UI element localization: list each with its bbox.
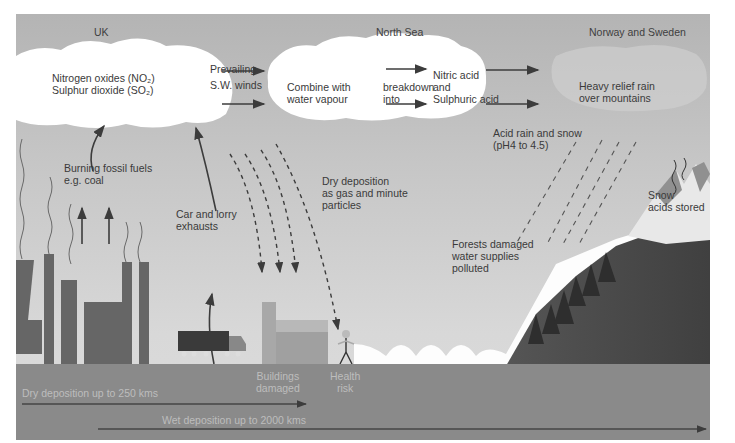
dry-dep-line-2: as gas and minute <box>322 187 408 199</box>
exhaust-line-1: Car and lorry <box>176 208 237 220</box>
dry-deposition-label: Dry deposition as gas and minute particl… <box>322 175 408 211</box>
region-label-north-sea: North Sea <box>376 26 423 38</box>
heavy-relief-rain-label: Heavy relief rain over mountains <box>579 80 655 104</box>
acid-rain-snow-label: Acid rain and snow (pH4 to 4.5) <box>493 127 582 151</box>
exhaust-line-2: exhausts <box>176 220 237 232</box>
uk-cloud-text: Nitrogen oxides (NO₂) Sulphur dioxide (S… <box>52 72 155 96</box>
acid-rain-line-1: Acid rain and snow <box>493 127 582 139</box>
factories <box>16 254 149 364</box>
buildings-damaged-label: Buildings damaged <box>256 370 300 394</box>
sulphur-dioxide-label: Sulphur dioxide (SO₂) <box>52 84 155 96</box>
snow-line-2: acids stored <box>648 201 705 213</box>
acids-label: Nitric acid and Sulphuric acid <box>433 69 499 105</box>
and-label: and <box>433 81 499 93</box>
dry-dep-line-3: particles <box>322 199 408 211</box>
acid-rain-line-2: (pH4 to 4.5) <box>493 139 582 151</box>
car-lorry-exhausts-label: Car and lorry exhausts <box>176 208 237 232</box>
forests-line-2: water supplies <box>452 250 534 262</box>
heavy-rain-line-2: over mountains <box>579 92 655 104</box>
heavy-rain-line-1: Heavy relief rain <box>579 80 655 92</box>
smoke-plumes <box>20 139 142 264</box>
wet-deposition-distance-label: Wet deposition up to 2000 kms <box>162 414 306 426</box>
breakdown-label: breakdown into <box>383 81 434 105</box>
fossil-line-2: e.g. coal <box>64 174 152 186</box>
snow-line-1: Snow <box>648 189 705 201</box>
region-label-norway-sweden: Norway and Sweden <box>589 26 686 38</box>
breakdown-line-1: breakdown <box>383 81 434 93</box>
dry-deposition-distance-label: Dry deposition up to 250 kms <box>22 387 158 399</box>
buildings-line-1: Buildings <box>256 370 300 382</box>
combine-line-2: water vapour <box>287 93 351 105</box>
winds-line-1: Prevailing <box>210 63 262 75</box>
person-health-risk <box>338 330 354 364</box>
combine-label: Combine with water vapour <box>287 81 351 105</box>
forests-line-3: polluted <box>452 262 534 274</box>
sulphuric-acid-label: Sulphuric acid <box>433 93 499 105</box>
buildings-line-2: damaged <box>256 382 300 394</box>
health-risk-label: Health risk <box>330 370 360 394</box>
winds-label: Prevailing S.W. winds <box>210 63 262 91</box>
region-label-uk: UK <box>94 26 109 38</box>
breakdown-line-2: into <box>383 93 434 105</box>
health-line-2: risk <box>330 382 360 394</box>
burning-fossil-fuels-label: Burning fossil fuels e.g. coal <box>64 162 152 186</box>
dry-dep-line-1: Dry deposition <box>322 175 408 187</box>
health-line-1: Health <box>330 370 360 382</box>
nitric-acid-label: Nitric acid <box>433 69 499 81</box>
snow-acids-stored-label: Snow acids stored <box>648 189 705 213</box>
acid-rain-streaks <box>516 140 636 246</box>
damaged-building <box>262 302 328 366</box>
forests-damaged-label: Forests damaged water supplies polluted <box>452 238 534 274</box>
forests-line-1: Forests damaged <box>452 238 534 250</box>
fossil-line-1: Burning fossil fuels <box>64 162 152 174</box>
acid-rain-diagram: UK North Sea Norway and Sweden Nitrogen … <box>16 14 710 440</box>
combine-line-1: Combine with <box>287 81 351 93</box>
dry-deposition-arrows <box>230 144 338 329</box>
winds-line-2: S.W. winds <box>210 79 262 91</box>
nitrogen-oxides-label: Nitrogen oxides (NO₂) <box>52 72 155 84</box>
